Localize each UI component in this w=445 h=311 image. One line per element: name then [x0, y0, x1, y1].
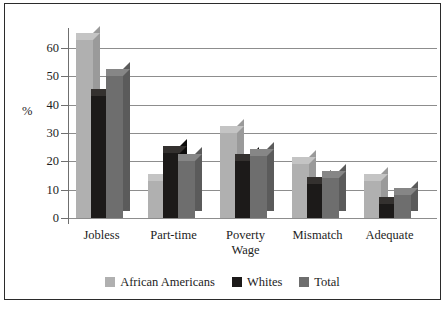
- bar-total-part-time: [178, 161, 195, 218]
- y-tick-label-60: 60: [19, 42, 59, 55]
- x-category-label-jobless: Jobless: [62, 228, 141, 243]
- gridline-60: [68, 48, 437, 49]
- bar-chart-figure: 6050403020100 % JoblessPart-timePovertyW…: [0, 0, 445, 311]
- bar-top-face: [106, 69, 123, 76]
- bar-top-face: [76, 33, 93, 40]
- y-tick-label-50: 50: [19, 70, 59, 83]
- legend-item-total[interactable]: Total: [299, 276, 340, 289]
- category-label-line: Mismatch: [278, 228, 357, 243]
- bar-front-face: [322, 178, 339, 218]
- chart-legend: African AmericansWhitesTotal: [0, 276, 445, 289]
- category-label-line: Adequate: [350, 228, 429, 243]
- legend-swatch-icon: [105, 277, 115, 287]
- x-category-label-adequate: Adequate: [350, 228, 429, 243]
- bar-front-face: [178, 161, 195, 218]
- bar-total-jobless: [106, 76, 123, 218]
- legend-label: African Americans: [120, 276, 215, 289]
- category-label-line: Jobless: [62, 228, 141, 243]
- bar-top-face: [220, 126, 237, 133]
- bar-top-face: [322, 171, 339, 178]
- bar-top-face: [163, 146, 180, 153]
- x-category-label-mismatch: Mismatch: [278, 228, 357, 243]
- gridline-0: [68, 218, 437, 219]
- bar-top-face: [178, 154, 195, 161]
- y-tick-label-30: 30: [19, 127, 59, 140]
- bar-side-face: [123, 69, 130, 211]
- bar-top-face: [394, 188, 411, 195]
- legend-item-african-americans[interactable]: African Americans: [105, 276, 215, 289]
- bar-total-adequate: [394, 195, 411, 218]
- y-tick-label-0: 0: [19, 212, 59, 225]
- bar-side-face: [339, 171, 346, 211]
- y-axis-line: [68, 28, 69, 224]
- category-label-line: Wage: [206, 243, 285, 258]
- y-axis-title: %: [22, 104, 32, 119]
- y-tick-label-20: 20: [19, 155, 59, 168]
- bar-front-face: [394, 195, 411, 218]
- bar-top-face: [364, 174, 381, 181]
- bar-total-poverty-wage: [250, 156, 267, 218]
- bar-side-face: [195, 154, 202, 211]
- legend-item-whites[interactable]: Whites: [232, 276, 282, 289]
- legend-label: Whites: [247, 276, 282, 289]
- plot-area: 6050403020100 % JoblessPart-timePovertyW…: [0, 0, 445, 311]
- bar-top-face: [250, 149, 267, 156]
- y-tick-label-10: 10: [19, 184, 59, 197]
- bar-total-mismatch: [322, 178, 339, 218]
- category-label-line: Poverty: [206, 228, 285, 243]
- x-category-label-part-time: Part-time: [134, 228, 213, 243]
- bar-front-face: [106, 76, 123, 218]
- legend-swatch-icon: [299, 277, 309, 287]
- category-label-line: Part-time: [134, 228, 213, 243]
- legend-label: Total: [314, 276, 340, 289]
- x-category-label-poverty-wage: PovertyWage: [206, 228, 285, 258]
- bar-front-face: [250, 156, 267, 218]
- bar-top-face: [292, 157, 309, 164]
- legend-swatch-icon: [232, 277, 242, 287]
- bar-side-face: [267, 149, 274, 211]
